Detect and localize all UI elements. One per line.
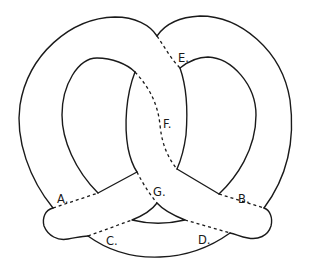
center-band-left-edge [126,72,137,172]
right-band-lower-edge [177,169,219,194]
label-f: F. [163,117,171,131]
center-band-right-edge [177,68,187,169]
pretzel-diagram: A. B. C. D. E. F. G. [0,0,311,273]
right-hole-edge [180,57,256,194]
label-e: E. [178,51,189,65]
label-b: B. [238,192,250,206]
right-loop-outer-edge [157,16,292,208]
pretzel-drawing: A. B. C. D. E. F. G. [0,0,311,273]
label-d: D. [198,233,211,247]
label-a: A. [57,192,68,206]
cut-line-d [185,220,230,233]
label-c: C. [106,234,118,248]
lower-inner-gap [132,203,185,223]
cut-line-e [157,36,180,68]
left-loop-outer-edge [19,17,157,208]
label-g: G. [153,185,166,199]
left-band-lower-edge [98,172,137,193]
left-lobe [43,208,88,239]
left-hole-edge [62,58,135,193]
right-lobe [230,208,272,239]
